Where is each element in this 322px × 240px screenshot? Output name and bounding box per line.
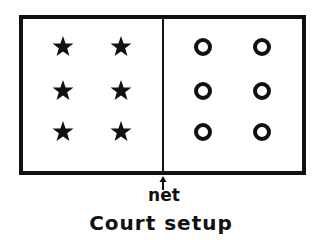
net-label: net: [148, 185, 180, 205]
figure-caption: Court setup: [89, 211, 233, 235]
court-setup-diagram: net Court setup: [0, 0, 322, 240]
figure-canvas: net Court setup: [0, 0, 322, 240]
